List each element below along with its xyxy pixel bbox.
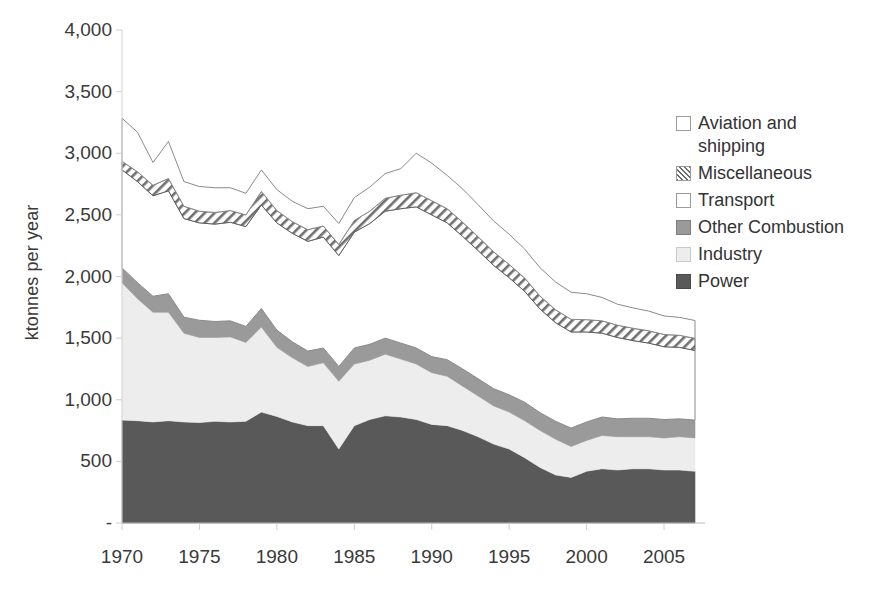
legend-swatch-icon	[676, 166, 691, 181]
area-bands	[122, 118, 695, 523]
y-axis-tick-label: 1,000	[20, 389, 112, 411]
legend-item[interactable]: Transport	[676, 189, 868, 212]
legend-item-label: Transport	[698, 189, 774, 212]
y-axis-tick-labels: -5001,0001,5002,0002,5003,0003,5004,000	[16, 0, 112, 596]
legend-swatch-icon	[676, 247, 691, 262]
stacked-area-plot	[0, 0, 873, 596]
legend-swatch-icon	[676, 116, 691, 131]
y-axis-tick-label: 4,000	[20, 19, 112, 41]
legend-item[interactable]: Industry	[676, 243, 868, 266]
legend-swatch-icon	[676, 193, 691, 208]
chart-container: ktonnes per year -5001,0001,5002,0002,50…	[0, 0, 873, 596]
legend-item[interactable]: Power	[676, 270, 868, 293]
y-axis-tick-label: 2,000	[20, 266, 112, 288]
legend-item-label: Other Combustion	[698, 216, 844, 239]
legend-item-label: Power	[698, 270, 749, 293]
legend-item[interactable]: Aviation and shipping	[676, 112, 868, 158]
chart-legend: Aviation and shippingMiscellaneousTransp…	[676, 112, 868, 297]
legend-item[interactable]: Miscellaneous	[676, 162, 868, 185]
legend-item-label: Industry	[698, 243, 762, 266]
y-axis-tick-label: 3,500	[20, 81, 112, 103]
legend-item-label: Aviation and shipping	[698, 112, 868, 158]
legend-swatch-icon	[676, 274, 691, 289]
y-axis-tick-label: 3,000	[20, 142, 112, 164]
y-axis-tick-label: 1,500	[20, 327, 112, 349]
y-axis-tick-label: 2,500	[20, 204, 112, 226]
y-axis-tick-label: 500	[20, 450, 112, 472]
legend-item[interactable]: Other Combustion	[676, 216, 868, 239]
x-axis-tick-label: 2005	[619, 546, 709, 568]
legend-item-label: Miscellaneous	[698, 162, 812, 185]
legend-swatch-icon	[676, 220, 691, 235]
y-axis-tick-label: -	[20, 512, 112, 534]
